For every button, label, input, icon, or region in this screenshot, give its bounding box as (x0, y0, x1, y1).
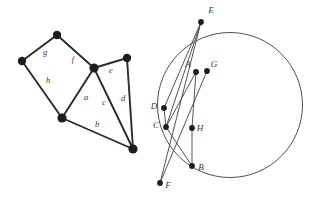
edge-label-e: e (109, 65, 113, 75)
point-label-H: H (196, 123, 204, 133)
graph-edge-c (94, 68, 133, 149)
point-A (193, 69, 199, 75)
edge-label-b: b (95, 119, 99, 129)
graph-edge-group (22, 35, 133, 149)
point-D (161, 105, 167, 111)
point-F (157, 180, 163, 186)
edge-label-f: f (72, 54, 76, 64)
point-label-G: G (211, 59, 218, 69)
edge-label-h: h (46, 75, 50, 85)
point-label-A: A (184, 59, 191, 69)
graph-vertex-v1 (53, 31, 61, 39)
graph-vertex-v2 (18, 57, 26, 65)
point-label-C: C (153, 120, 160, 130)
point-C (163, 124, 169, 130)
graph-edge-f (57, 35, 94, 68)
graph-edge-h (22, 61, 62, 118)
circle-outline (158, 33, 303, 178)
graph-vertex-v6 (128, 144, 137, 153)
circle-group (158, 33, 303, 178)
point-label-E: E (207, 5, 214, 15)
graph-vertex-v5 (57, 113, 66, 122)
edge-label-c: c (102, 97, 106, 107)
edge-label-d: d (121, 93, 126, 103)
chord-group (160, 22, 207, 183)
graph-vertex-v4 (123, 54, 131, 62)
diagram-canvas: gfhaecdb ABCDEFGH (0, 0, 315, 197)
graph-vertex-v3 (89, 63, 98, 72)
point-G (204, 68, 210, 74)
edge-label-g: g (43, 47, 47, 57)
graph-edge-a (62, 68, 94, 118)
point-label-F: F (164, 180, 171, 190)
graph-edge-g (22, 35, 57, 61)
point-label-D: D (150, 101, 158, 111)
chord-AH (192, 72, 196, 128)
point-E (198, 19, 204, 25)
point-H (189, 125, 195, 131)
figure-root: gfhaecdb ABCDEFGH (0, 0, 315, 197)
point-label-group: ABCDEFGH (150, 5, 218, 190)
graph-edge-d (127, 58, 133, 149)
point-label-B: B (198, 162, 204, 172)
chord-CA (166, 72, 196, 127)
point-B (189, 163, 195, 169)
edge-label-a: a (84, 92, 88, 102)
